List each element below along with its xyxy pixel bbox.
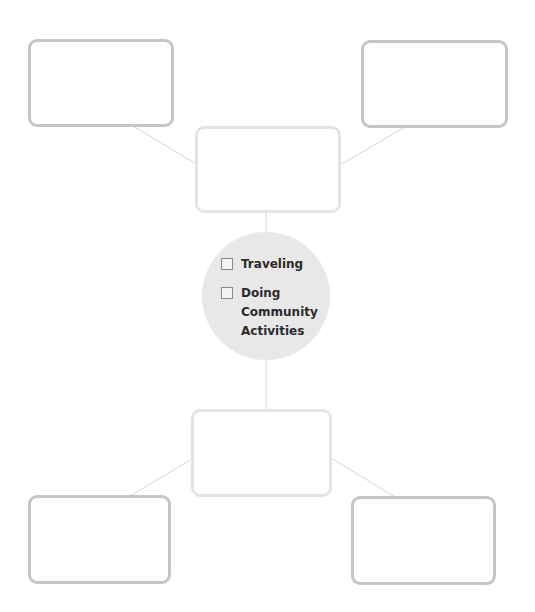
connector-top-right (340, 127, 405, 165)
label-line-2: Community (241, 303, 318, 322)
checkbox-traveling[interactable] (221, 258, 233, 270)
label-line-1: Doing (241, 284, 318, 303)
box-top-left[interactable] (28, 39, 174, 127)
label-line-3: Activities (241, 322, 318, 341)
box-bottom-center[interactable] (191, 409, 332, 497)
option-doing-community-activities[interactable]: Doing Community Activities (221, 284, 318, 341)
box-bottom-right[interactable] (351, 496, 496, 585)
box-top-right[interactable] (361, 40, 508, 128)
box-bottom-left[interactable] (28, 495, 171, 584)
checkbox-doing-community-activities[interactable] (221, 287, 233, 299)
option-traveling[interactable]: Traveling (221, 255, 303, 274)
connector-bottom-right (331, 458, 395, 497)
connector-top-left (133, 126, 196, 164)
option-doing-community-activities-label: Doing Community Activities (241, 284, 318, 341)
option-traveling-label: Traveling (241, 255, 303, 274)
box-top-center[interactable] (195, 126, 341, 213)
connector-bottom-left (130, 459, 192, 496)
